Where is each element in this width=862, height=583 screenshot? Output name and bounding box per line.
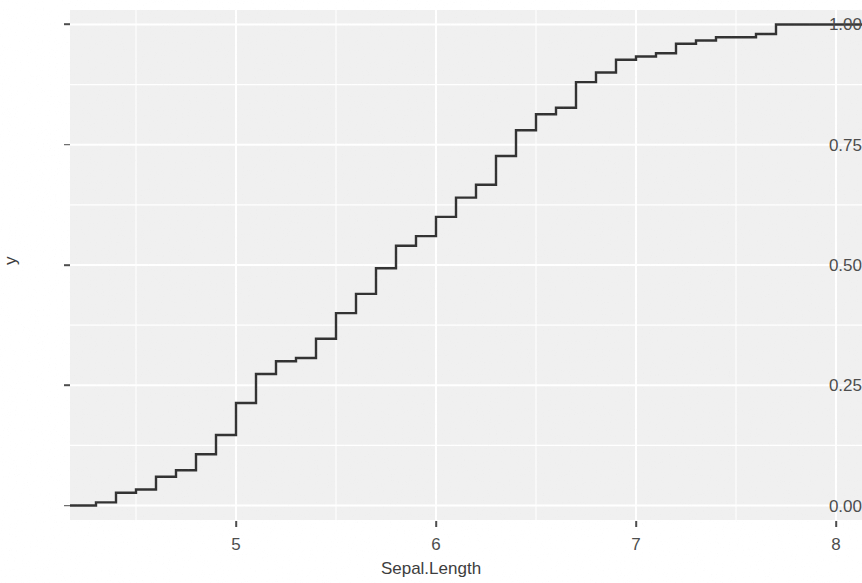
plot-panel	[70, 10, 862, 520]
y-tick-mark	[64, 384, 70, 386]
y-tick-label: 1.00	[806, 16, 862, 33]
x-tick-mark	[435, 521, 437, 527]
x-axis-title: Sepal.Length	[0, 560, 862, 577]
y-tick-label: 0.75	[806, 136, 862, 153]
x-tick-label: 5	[231, 536, 240, 553]
x-tick-label: 6	[431, 536, 440, 553]
x-tick-label: 7	[631, 536, 640, 553]
plot-panel-svg	[70, 10, 862, 520]
x-tick-mark	[835, 521, 837, 527]
y-tick-mark	[64, 24, 70, 26]
x-tick-label: 8	[831, 536, 840, 553]
y-tick-label: 0.25	[806, 377, 862, 394]
ecdf-chart: 0.000.250.500.751.00 y 5678 Sepal.Length	[0, 0, 862, 583]
y-tick-label: 0.50	[806, 257, 862, 274]
y-tick-label: 0.00	[806, 497, 862, 514]
x-tick-mark	[235, 521, 237, 527]
x-tick-mark	[635, 521, 637, 527]
y-tick-mark	[64, 505, 70, 507]
y-tick-mark	[64, 144, 70, 146]
gridlines-major	[70, 10, 862, 520]
y-tick-mark	[64, 264, 70, 266]
y-axis-title: y	[2, 257, 19, 266]
